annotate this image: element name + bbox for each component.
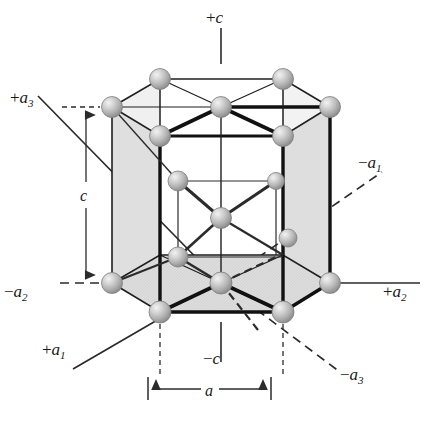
atom [272, 301, 294, 323]
atom [268, 173, 285, 190]
label-plus-c: +c [206, 8, 224, 27]
atom [168, 247, 188, 267]
atom [210, 272, 232, 294]
atom [211, 97, 232, 118]
atom [149, 301, 171, 323]
atom [102, 97, 123, 118]
atom [150, 126, 171, 147]
atom [320, 273, 341, 294]
label-dim-a: a [205, 382, 213, 399]
atom [273, 69, 294, 90]
atom [320, 97, 341, 118]
label-dim-c: c [80, 187, 87, 204]
atom [150, 69, 171, 90]
atom [273, 126, 294, 147]
label-minus-c: −c [203, 349, 221, 368]
crystal-diagram-svg: +c −c +a3 −a3 +a1 −a1 +a2 −a2 c a [0, 0, 431, 424]
hcp-unit-cell-figure: +c −c +a3 −a3 +a1 −a1 +a2 −a2 c a [0, 0, 431, 424]
atom [211, 208, 232, 229]
atom [168, 171, 188, 191]
atom [279, 229, 297, 247]
atom [102, 273, 123, 294]
